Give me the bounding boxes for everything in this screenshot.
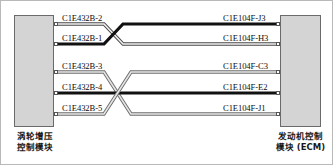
right-module-caption-line2: 模块 (ECM) [267, 142, 333, 153]
right-pin-c1e104f-j1 [276, 112, 280, 116]
left-pin-c1e432b-3 [54, 70, 58, 74]
left-module-caption-line2: 控制模块 [1, 142, 68, 153]
left-pin-label-2: C1E432B-3 [62, 62, 102, 71]
right-pin-c1e104f-h3 [276, 42, 280, 46]
right-pin-c1e104f-j3 [276, 22, 280, 26]
left-pin-c1e432b-5 [54, 112, 58, 116]
right-pin-label-2: C1E104F-C3 [223, 62, 268, 71]
wiring-diagram: C1E432B-2C1E432B-1C1E432B-3C1E432B-4C1E4… [0, 0, 333, 165]
left-module-caption-line1: 涡轮增压 [1, 131, 68, 142]
left-pin-c1e432b-4 [54, 91, 58, 95]
right-pin-c1e104f-e2 [276, 91, 280, 95]
left-pin-label-4: C1E432B-5 [62, 104, 102, 113]
right-module-caption: 发动机控制 模块 (ECM) [267, 131, 333, 153]
right-module-caption-line1: 发动机控制 [267, 131, 333, 142]
left-module-caption: 涡轮增压 控制模块 [1, 131, 68, 153]
right-pin-label-4: C1E104F-J1 [223, 104, 265, 113]
left-pin-c1e432b-2 [54, 22, 58, 26]
left-pin-c1e432b-1 [54, 42, 58, 46]
left-pin-label-3: C1E432B-4 [62, 83, 102, 92]
right-pin-label-3: C1E104F-E2 [223, 83, 267, 92]
right-pin-c1e104f-c3 [276, 70, 280, 74]
right-pin-label-0: C1E104F-J3 [223, 14, 265, 23]
left-pin-label-1: C1E432B-1 [62, 34, 102, 43]
right-pin-label-1: C1E104F-H3 [223, 34, 268, 43]
left-pin-label-0: C1E432B-2 [62, 14, 102, 23]
